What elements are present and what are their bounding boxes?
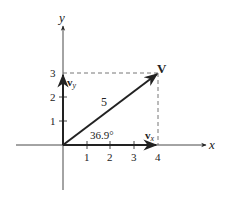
x-axis-label: x bbox=[208, 137, 215, 152]
vector-components-diagram: x y 1 2 3 4 1 2 3 V 5 36.9° vx vy bbox=[0, 0, 225, 197]
magnitude-label: 5 bbox=[101, 95, 107, 109]
y-axis-label: y bbox=[57, 10, 65, 25]
y-tick-label: 2 bbox=[50, 91, 56, 103]
vector-v-label: V bbox=[157, 61, 167, 76]
diagram-canvas: x y 1 2 3 4 1 2 3 V 5 36.9° vx vy bbox=[0, 0, 225, 197]
y-tick-label: 3 bbox=[50, 67, 56, 79]
angle-label: 36.9° bbox=[90, 129, 114, 141]
vy-label: vy bbox=[67, 76, 77, 90]
x-tick-label: 1 bbox=[84, 151, 90, 163]
y-tick-label: 1 bbox=[50, 115, 56, 127]
vx-label: vx bbox=[145, 129, 155, 143]
x-tick-label: 4 bbox=[155, 151, 161, 163]
x-tick-label: 2 bbox=[107, 151, 113, 163]
x-tick-label: 3 bbox=[131, 151, 137, 163]
